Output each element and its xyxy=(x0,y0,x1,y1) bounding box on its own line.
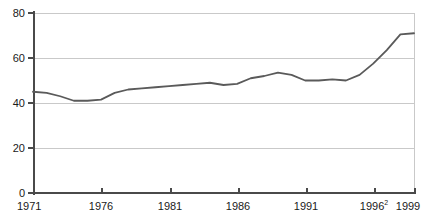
data-line-series-1 xyxy=(33,33,414,101)
line-chart: 0 20 40 60 80 1971 1976 1981 1986 1991 1… xyxy=(0,0,427,219)
series-svg xyxy=(0,0,427,219)
